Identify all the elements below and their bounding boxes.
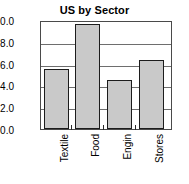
gridline-8 xyxy=(41,44,171,45)
bar-textile[interactable] xyxy=(44,69,69,129)
bar-engin[interactable] xyxy=(107,80,132,129)
x-tick-mark xyxy=(103,125,104,130)
x-tick-label-textile: Textile xyxy=(60,134,70,162)
y-tick-label: 6.0 xyxy=(0,61,14,71)
plot-area xyxy=(40,21,172,130)
chart-title: US by Sector xyxy=(0,4,189,17)
y-tick-label: 2.0 xyxy=(0,104,14,114)
bar-stores[interactable] xyxy=(139,60,164,129)
bar-food[interactable] xyxy=(75,24,100,129)
x-tick-label-food: Food xyxy=(91,134,101,157)
y-tick-label: 0.0 xyxy=(0,126,14,136)
y-tick-label: 10.0 xyxy=(0,17,14,27)
x-tick-label-stores: Stores xyxy=(155,134,165,163)
y-tick-label: 8.0 xyxy=(0,39,14,49)
x-tick-label-engin: Engin xyxy=(123,134,133,160)
bar-chart-figure: US by Sector 10.0 8.0 6.0 4.0 2.0 0.0 Te… xyxy=(0,0,189,184)
y-tick-label: 4.0 xyxy=(0,82,14,92)
x-tick-mark xyxy=(135,125,136,130)
x-tick-mark xyxy=(71,125,72,130)
